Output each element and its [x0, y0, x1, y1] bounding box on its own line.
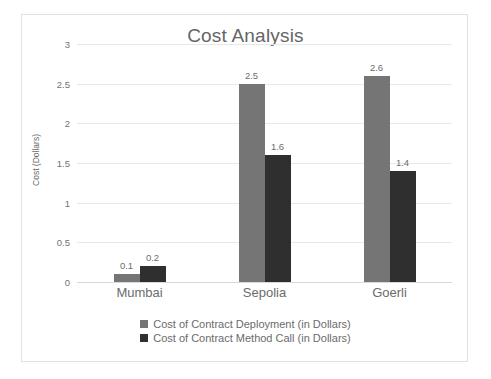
bar-slot: 1.6 [265, 44, 291, 282]
legend-item[interactable]: Cost of Contract Method Call (in Dollars… [140, 332, 350, 344]
chart-legend: Cost of Contract Deployment (in Dollars)… [22, 318, 469, 344]
bars-layer: 0.10.22.51.62.61.4 [77, 44, 452, 282]
gridline: 0 [77, 282, 452, 283]
bar[interactable]: 0.1 [114, 274, 140, 282]
bar-value-label: 2.6 [370, 62, 383, 73]
bar[interactable]: 1.4 [390, 171, 416, 282]
y-axis-tick-label: 2 [65, 118, 70, 129]
legend-label: Cost of Contract Method Call (in Dollars… [153, 332, 350, 344]
bar-value-label: 1.4 [396, 157, 409, 168]
y-axis-tick-label: 1.5 [57, 158, 70, 169]
plot-area: 32.521.510.50 0.10.22.51.62.61.4 [77, 44, 452, 282]
chart-container: Cost Analysis Cost (Dollars) 32.521.510.… [21, 14, 468, 362]
legend-swatch [140, 320, 148, 328]
y-axis-tick-label: 0.5 [57, 237, 70, 248]
bar-value-label: 0.2 [146, 252, 159, 263]
bar-value-label: 0.1 [120, 260, 133, 271]
bar-group: 2.51.6 [202, 44, 327, 282]
y-axis-tick-label: 1 [65, 197, 70, 208]
x-axis-category-label: Goerli [327, 285, 452, 300]
bar-slot: 0.2 [140, 44, 166, 282]
y-axis-tick-label: 2.5 [57, 78, 70, 89]
bar-value-label: 2.5 [245, 70, 258, 81]
bar[interactable]: 2.6 [364, 76, 390, 282]
x-axis-category-labels: MumbaiSepoliaGoerli [77, 285, 452, 300]
bar[interactable]: 1.6 [265, 155, 291, 282]
x-axis-category-label: Mumbai [77, 285, 202, 300]
y-axis-title: Cost (Dollars) [31, 100, 41, 220]
legend-label: Cost of Contract Deployment (in Dollars) [153, 318, 350, 330]
x-axis-category-label: Sepolia [202, 285, 327, 300]
legend-item[interactable]: Cost of Contract Deployment (in Dollars) [140, 318, 350, 330]
bar-group: 0.10.2 [77, 44, 202, 282]
y-axis-tick-label: 3 [65, 39, 70, 50]
bar-value-label: 1.6 [271, 141, 284, 152]
bar-slot: 1.4 [390, 44, 416, 282]
y-axis-tick-label: 0 [65, 277, 70, 288]
bar-slot: 2.5 [239, 44, 265, 282]
bar-slot: 2.6 [364, 44, 390, 282]
bar[interactable]: 0.2 [140, 266, 166, 282]
legend-swatch [140, 334, 148, 342]
bar-group: 2.61.4 [327, 44, 452, 282]
bar-slot: 0.1 [114, 44, 140, 282]
bar[interactable]: 2.5 [239, 84, 265, 282]
